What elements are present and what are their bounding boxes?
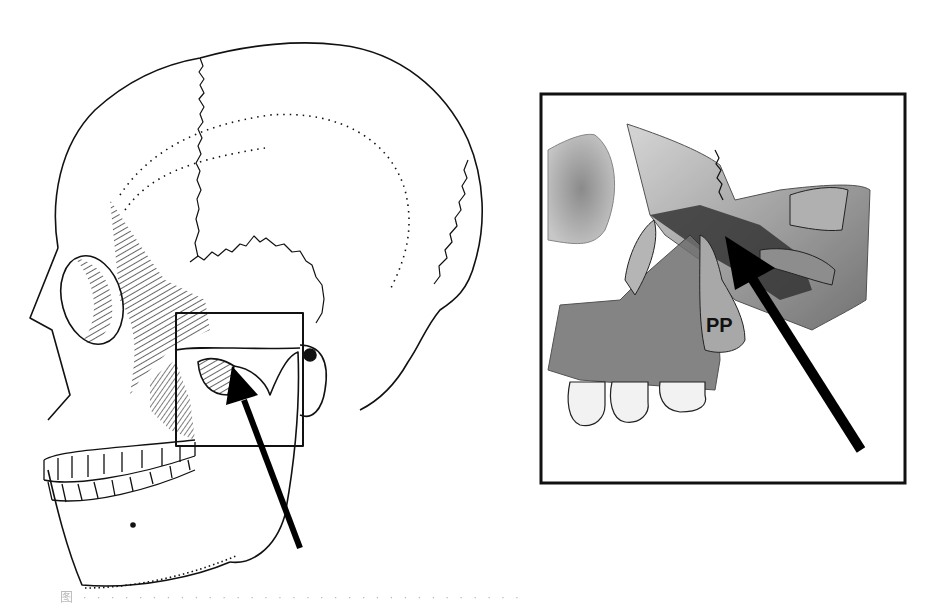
figure-caption: 图 · · · · · · · · · · · · · · · · · · · … (60, 586, 920, 603)
coronal-suture (195, 58, 204, 257)
squamosal-suture (190, 236, 324, 323)
external-acoustic-meatus (304, 349, 316, 361)
inset-orbit (548, 134, 615, 243)
label-pp: PP (706, 314, 733, 336)
arrow-left (226, 366, 300, 548)
skull-figure: PP (0, 0, 936, 603)
inferior-temporal-line (125, 148, 265, 210)
zygomatic-arch (175, 348, 300, 350)
mental-foramen (131, 523, 135, 527)
zygomatic-shading (110, 200, 210, 395)
inset-arch (790, 188, 848, 231)
mandible-body (48, 470, 230, 586)
superior-temporal-line (120, 114, 409, 290)
orbit-shading (75, 258, 112, 343)
inset-panel: PP (541, 94, 905, 483)
upper-teeth (44, 440, 195, 482)
pterygoid-shading (150, 360, 195, 440)
mandible-hatch (85, 555, 238, 588)
skull-lateral-view (30, 43, 482, 588)
lambdoid-suture (434, 160, 468, 284)
